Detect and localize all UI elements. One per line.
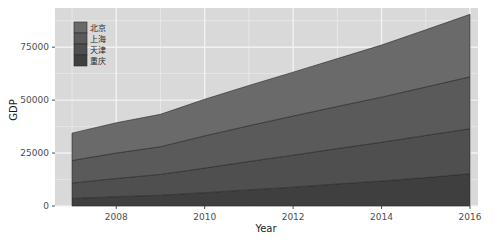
x-tick-label: 2012 <box>282 212 305 222</box>
legend-swatch[interactable] <box>74 44 87 55</box>
legend-swatch[interactable] <box>74 55 87 66</box>
legend-label[interactable]: 天津 <box>90 45 106 55</box>
y-tick-label: 50000 <box>20 95 49 105</box>
legend-swatch[interactable] <box>74 22 87 33</box>
y-tick-label: 25000 <box>20 148 49 158</box>
legend-label[interactable]: 上海 <box>90 34 106 44</box>
legend-label[interactable]: 重庆 <box>90 56 106 66</box>
x-tick-label: 2008 <box>105 212 128 222</box>
y-axis-title: GDP <box>8 99 19 120</box>
legend-label[interactable]: 北京 <box>90 23 106 33</box>
chart-svg: 0250005000075000 20082010201220142016 北京… <box>0 0 495 250</box>
y-tick-label: 75000 <box>20 42 49 52</box>
x-tick-label: 2010 <box>193 212 216 222</box>
x-tick-label: 2016 <box>459 212 482 222</box>
stacked-area-chart: 0250005000075000 20082010201220142016 北京… <box>0 0 495 250</box>
legend-swatch[interactable] <box>74 33 87 44</box>
x-tick-label: 2014 <box>370 212 393 222</box>
y-tick-label: 0 <box>43 201 49 211</box>
x-axis-title: Year <box>254 223 277 234</box>
